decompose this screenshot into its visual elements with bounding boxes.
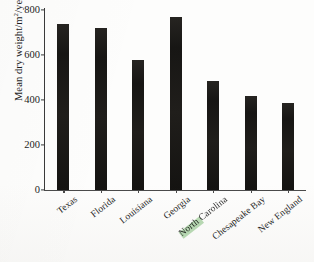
y-axis-title-suffix: /year [13,0,24,13]
x-label-louisiana: Louisiana [118,194,154,226]
y-tick-label: 400 [24,94,40,105]
plot-area: 0200400600800 [44,10,306,190]
bar-north-carolina [207,81,219,190]
x-label-georgia: Georgia [161,194,192,221]
y-axis-title-prefix: Mean dry weight/m [13,17,24,102]
y-tick-label: 200 [24,139,40,150]
x-tick-mark [213,190,214,193]
bar-georgia [170,17,182,190]
bar-chesapeake-bay [245,96,257,190]
y-axis-title-superscript: 2 [12,13,20,17]
y-tick-mark [41,54,45,55]
bar-chart-figure: Mean dry weight/m2/year 0200400600800 Te… [0,0,314,262]
bar-florida [95,28,107,190]
bar-new-england [282,103,294,190]
x-tick-mark [101,190,102,193]
x-label-florida: Florida [89,194,117,219]
y-tick-mark [41,9,45,10]
bar-texas [57,24,69,191]
y-tick-mark [41,144,45,145]
y-tick-label: 0 [35,184,40,195]
y-tick-mark [41,99,45,100]
bar-louisiana [132,60,144,190]
x-tick-mark [288,190,289,193]
x-label-texas: Texas [56,194,80,216]
y-tick-label: 800 [24,4,40,15]
x-tick-mark [176,190,177,193]
y-axis-title: Mean dry weight/m2/year [12,0,25,126]
x-tick-mark [138,190,139,193]
y-tick-mark [41,189,45,190]
x-tick-mark [251,190,252,193]
x-tick-mark [63,190,64,193]
y-tick-label: 600 [24,49,40,60]
